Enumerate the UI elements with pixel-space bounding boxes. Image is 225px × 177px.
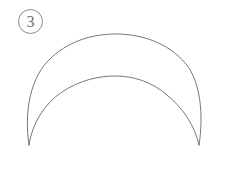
circled-number-badge: 3 xyxy=(18,9,43,34)
badge-number: 3 xyxy=(27,14,35,30)
